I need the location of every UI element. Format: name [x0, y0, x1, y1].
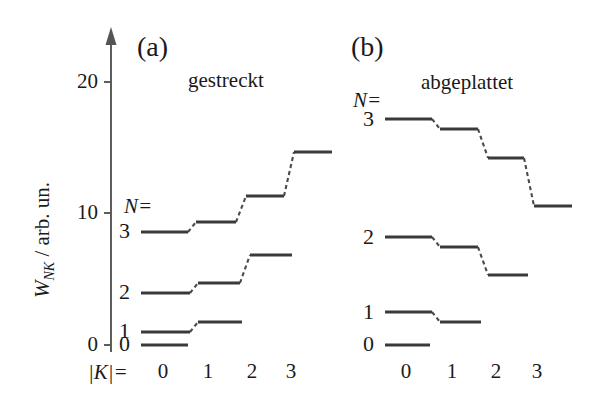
panel-b-levels	[385, 119, 572, 345]
panel-a-n-value-0: 0	[104, 333, 130, 355]
panel-b-level-N1	[385, 312, 481, 322]
panel-a-x-tick-3: 3	[276, 361, 306, 382]
panel-b-x-tick-2: 2	[481, 361, 511, 382]
levels-canvas	[0, 0, 591, 416]
panel-a-n-header: N=	[124, 196, 152, 217]
panel-a-level-N2	[141, 255, 292, 293]
energy-level-figure: WNK / arb. un. 20 10 0	[0, 0, 591, 416]
panel-a-n-value-3: 3	[104, 220, 130, 242]
panel-b-letter: (b)	[351, 33, 384, 61]
panel-a-x-tick-1: 1	[193, 361, 223, 382]
panel-a-x-tick-0: 0	[148, 361, 178, 382]
panel-b-level-N3	[385, 119, 572, 206]
panel-a-level-N3	[141, 152, 332, 232]
panel-a-letter: (a)	[137, 33, 168, 61]
x-axis-label: |K|=	[88, 362, 128, 383]
panel-b-name: abgeplattet	[421, 72, 513, 93]
panel-b-n-value-2: 2	[348, 226, 374, 248]
panel-a-name: gestreckt	[188, 70, 264, 91]
panel-b-level-N2	[385, 237, 528, 275]
panel-a-levels	[141, 152, 332, 345]
panel-a-x-tick-2: 2	[237, 361, 267, 382]
panel-b-n-value-1: 1	[348, 301, 374, 323]
panel-b-n-value-0: 0	[348, 333, 374, 355]
panel-a-n-value-2: 2	[104, 281, 130, 303]
panel-b-n-value-3: 3	[348, 108, 374, 130]
y-axis	[104, 27, 117, 352]
panel-b-x-tick-0: 0	[391, 361, 421, 382]
panel-b-x-tick-1: 1	[437, 361, 467, 382]
panel-b-x-tick-3: 3	[522, 361, 552, 382]
panel-a-level-N1	[141, 322, 242, 332]
